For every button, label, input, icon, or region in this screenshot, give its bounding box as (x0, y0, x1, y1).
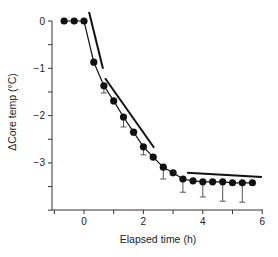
data-point (160, 164, 167, 171)
data-point (100, 82, 107, 89)
data-point (150, 154, 157, 161)
y-axis: 0−1−2−3 (34, 16, 52, 211)
fit-line-phase-3 (187, 173, 262, 177)
data-point (229, 179, 236, 186)
data-point (189, 177, 196, 184)
data-point (110, 97, 117, 104)
x-tick-label: 0 (81, 216, 87, 227)
data-point (209, 178, 216, 185)
data-point (90, 59, 97, 66)
x-axis-ticks: 0246 (54, 210, 265, 227)
plot-area (61, 12, 262, 202)
data-point (130, 129, 137, 136)
y-axis-label: ΔCore temp (°C) (6, 73, 18, 151)
data-point (249, 179, 256, 186)
x-tick-label: 2 (141, 216, 147, 227)
y-tick-label: 0 (39, 16, 45, 27)
y-tick-label: −3 (34, 157, 46, 168)
data-series-line (64, 21, 252, 183)
fit-lines (89, 12, 262, 177)
x-tick-label: 6 (259, 216, 265, 227)
data-point (219, 178, 226, 185)
x-tick-label: 4 (200, 216, 206, 227)
core-temp-chart: 0−1−2−3 0246 Elapsed time (h) ΔCore temp… (0, 0, 278, 257)
data-point (80, 17, 87, 24)
data-point (239, 179, 246, 186)
x-axis: 0246 (52, 210, 265, 227)
data-point (120, 113, 127, 120)
y-axis-ticks: 0−1−2−3 (34, 16, 52, 211)
data-markers (61, 17, 256, 186)
data-point (71, 17, 78, 24)
data-point (140, 143, 147, 150)
fit-line-phase-2 (105, 78, 154, 148)
data-point (199, 178, 206, 185)
y-tick-label: −1 (34, 63, 46, 74)
data-point (179, 175, 186, 182)
data-point (170, 169, 177, 176)
data-point (61, 17, 68, 24)
x-axis-label: Elapsed time (h) (120, 233, 196, 245)
y-tick-label: −2 (34, 110, 46, 121)
